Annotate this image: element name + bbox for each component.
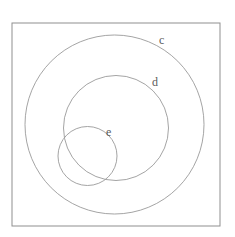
set-circle-c	[25, 35, 204, 214]
euler-diagram-canvas: c d e	[0, 0, 235, 237]
set-label-c: c	[159, 33, 164, 47]
set-label-e: e	[106, 125, 111, 139]
diagram-frame	[12, 23, 220, 226]
set-label-d: d	[152, 75, 158, 89]
euler-diagram-figure: c d e	[0, 0, 235, 237]
